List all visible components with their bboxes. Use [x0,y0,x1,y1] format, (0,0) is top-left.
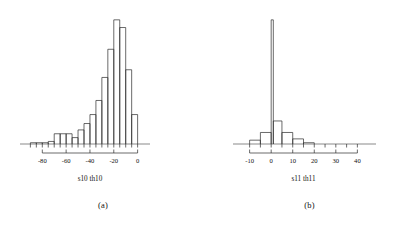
histogram-bar [84,124,90,144]
histogram-bar [132,115,138,144]
histogram-bar [102,77,108,144]
x-axis-tick-label: -20 [109,157,118,164]
x-axis-tick-label: -80 [38,157,47,164]
histogram-bar [48,141,54,144]
histogram-bar [250,140,261,144]
histogram-bar [293,139,304,144]
x-axis-tick-label: 0 [270,157,274,164]
x-axis-tick-label: -60 [62,157,71,164]
histogram-bar [282,132,293,144]
histogram-bar [273,121,282,144]
panel-a: -80-60-40-200s10 th10 (a) [0,0,206,236]
histogram-bars [250,20,315,144]
x-axis-tick-label: 30 [333,157,340,164]
histogram-chart-b: -10010203040s11 th11 [206,0,413,200]
histogram-bar [114,20,120,144]
histogram-bar [66,134,72,144]
x-axis: -10010203040 [245,150,361,165]
panel-a-caption: (a) [0,200,206,210]
histogram-bar [108,49,114,144]
histogram-bar [72,138,78,144]
histogram-chart-a: -80-60-40-200s10 th10 [0,0,206,200]
x-axis-tick-label: 0 [136,157,140,164]
histogram-bar [96,100,102,144]
x-axis-tick-label: 10 [289,157,296,164]
histogram-bar [126,70,132,144]
histogram-bars [30,20,137,144]
x-axis-title: s11 th11 [291,175,315,183]
x-axis-tick-label: 20 [311,157,318,164]
histogram-bar [90,115,96,144]
histogram-bar [54,134,60,144]
x-axis: -80-60-40-200 [38,150,140,165]
histogram-bar [60,134,66,144]
x-axis-title: s10 th10 [78,175,103,183]
axis-minor-ticks [250,144,358,148]
panel-b-caption: (b) [206,200,413,210]
axis-minor-ticks [30,144,137,148]
figure-container: -80-60-40-200s10 th10 (a) -10010203040s1… [0,0,413,236]
histogram-bar [78,130,84,144]
x-axis-tick-label: -10 [245,157,254,164]
histogram-bar [260,132,271,144]
panel-b: -10010203040s11 th11 (b) [206,0,413,236]
x-axis-tick-label: 40 [354,157,361,164]
x-axis-tick-label: -40 [86,157,95,164]
histogram-bar [120,28,126,144]
